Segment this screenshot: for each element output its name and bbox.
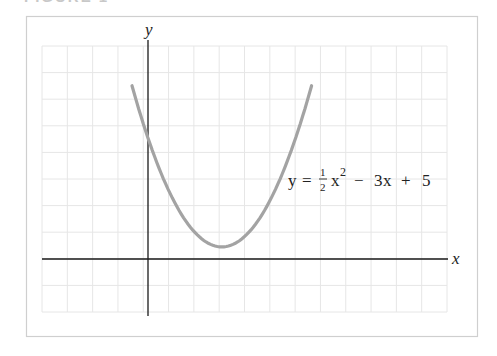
svg-text:x: x [383,171,392,190]
svg-text:y: y [288,171,297,190]
svg-text:5: 5 [422,171,431,190]
x-axis-label: x [451,249,460,268]
y-axis-label: y [143,20,153,39]
svg-text:3: 3 [374,171,383,190]
parabola-chart: y x y = 1 2 x 2 − 3 x + 5 [0,0,497,356]
fraction-numerator: 1 [320,166,326,178]
fraction-denominator: 2 [320,181,326,193]
exponent: 2 [340,165,346,179]
svg-text:+: + [401,171,411,190]
svg-text:x: x [331,171,340,190]
svg-text:−: − [354,171,364,190]
svg-text:=: = [302,171,312,190]
